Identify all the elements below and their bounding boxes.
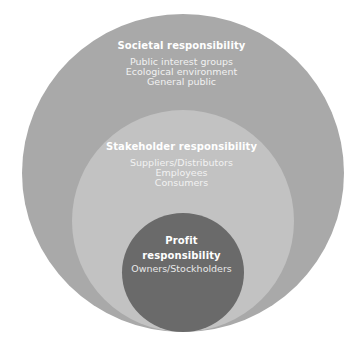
- stakeholder-responsibility-title: Stakeholder responsibility: [0, 141, 363, 153]
- profit-item: Owners/Stockholders: [0, 264, 363, 274]
- societal-responsibility-title: Societal responsibility: [0, 40, 363, 52]
- stakeholder-item: Consumers: [0, 178, 363, 188]
- societal-item: General public: [0, 77, 363, 87]
- stakeholder-responsibility-label-group: Stakeholder responsibility Suppliers/Dis…: [0, 141, 363, 188]
- societal-responsibility-label-group: Societal responsibility Public interest …: [0, 40, 363, 87]
- profit-responsibility-label-group: Profit responsibility Owners/Stockholder…: [0, 234, 363, 274]
- profit-responsibility-title-line-1: Profit: [0, 234, 363, 247]
- profit-responsibility-title-line-2: responsibility: [0, 249, 363, 262]
